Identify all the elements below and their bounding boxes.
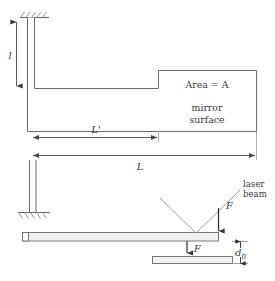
gap-d0-label: d0 <box>235 247 246 261</box>
capital-l-label: L <box>136 161 144 172</box>
laser-beam-rays <box>160 190 240 233</box>
force-lower-label: F <box>193 243 201 254</box>
area-label: Area = A <box>185 79 229 90</box>
length-l-label: l <box>8 50 11 61</box>
cantilever-beam <box>23 233 219 242</box>
mirror-label-line1: mirror <box>192 102 223 113</box>
laser-label-line2: beam <box>243 189 267 199</box>
floor-support-icon <box>18 213 50 219</box>
laser-label-line1: laser <box>243 179 265 189</box>
laser-leader-line <box>232 190 240 198</box>
force-upper-label: F <box>225 200 233 211</box>
upper-vertical-post <box>28 18 35 132</box>
ceiling-support-icon <box>20 12 49 18</box>
figure-container: Area = A mirror surface l L' L <box>0 0 275 281</box>
lower-vertical-post <box>30 160 37 213</box>
laser-incident-ray <box>160 198 196 233</box>
mirror-label-line2: surface <box>189 114 225 125</box>
diagram-canvas: Area = A mirror surface l L' L <box>0 0 275 281</box>
base-plate <box>153 257 233 264</box>
l-prime-label: L' <box>90 124 100 135</box>
gap-d0-subscript: 0 <box>241 253 245 261</box>
